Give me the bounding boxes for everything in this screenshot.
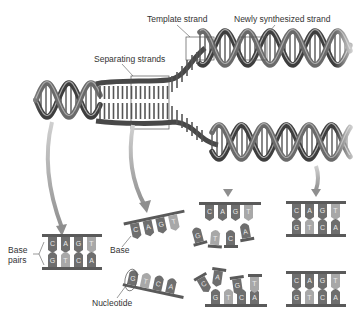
base-letter: C <box>294 277 299 284</box>
base-letter: A <box>333 224 338 231</box>
label-base: Base <box>110 245 130 255</box>
base-letter: C <box>294 207 299 214</box>
base-letter: G <box>213 294 218 301</box>
arrow-to-separation <box>131 125 145 206</box>
base-letter: C <box>320 224 325 231</box>
nucleotide-backbone <box>248 274 262 277</box>
nucleotide-backbone <box>208 244 222 248</box>
replicating-top-panel: CAGTGTCA <box>189 202 261 249</box>
separated-top-strand: CAGT <box>123 210 188 241</box>
base-letter: A <box>252 294 257 301</box>
dna-replication-diagram: Template strand Newly synthesized strand… <box>0 0 360 326</box>
base-letter: C <box>228 235 233 242</box>
backbone-bottom <box>42 267 102 270</box>
backbone-bottom <box>286 234 346 237</box>
lower-template-backbone <box>96 121 218 145</box>
base-letter: G <box>233 208 238 215</box>
arrow-head-3 <box>223 189 233 197</box>
base-letter: G <box>294 224 299 231</box>
daughter-helix-bottom <box>212 124 350 160</box>
base-letter: G <box>320 277 325 284</box>
base-letter: C <box>50 240 55 247</box>
incoming-nucleotide: T <box>248 274 262 293</box>
base-letter: A <box>307 277 312 284</box>
backbone-top <box>286 271 346 274</box>
backbone-bottom <box>286 304 346 307</box>
incoming-nucleotide: G <box>189 226 207 247</box>
base-pair-panel: CAGTGTCA <box>286 201 346 237</box>
arrow-to-base-pairs <box>48 122 62 228</box>
backbone <box>199 202 261 205</box>
base-letter: T <box>246 208 251 215</box>
separating-leader <box>122 64 133 76</box>
base-letter: C <box>239 294 244 301</box>
base-letter: T <box>252 280 257 287</box>
daughter-helix-top <box>200 30 350 66</box>
base-letter: C <box>207 208 212 215</box>
backbone-top <box>42 234 102 237</box>
nucleotide-backbone <box>224 245 238 248</box>
incoming-nucleotide: A <box>210 267 227 288</box>
base-letter: T <box>63 257 68 264</box>
label-base-pairs-1: Base <box>8 245 28 255</box>
base-letter: A <box>333 294 338 301</box>
base-letter: G <box>320 207 325 214</box>
base-letter: T <box>89 240 94 247</box>
base-letter: C <box>76 257 81 264</box>
backbone <box>205 304 267 307</box>
label-template-strand: Template strand <box>147 14 208 24</box>
nucleotide-leader <box>117 283 128 298</box>
parent-helix <box>36 82 100 118</box>
arrow-to-daughters <box>316 166 318 190</box>
label-base-pairs-2: pairs <box>8 255 26 265</box>
base-pair-panel: CAGTGTCA <box>42 234 102 270</box>
base-letter: A <box>89 257 94 264</box>
base-letter: T <box>307 294 312 301</box>
fade-right <box>335 20 360 170</box>
base-letter: T <box>226 294 231 301</box>
base-letter: G <box>50 257 55 264</box>
base-letter: A <box>220 208 225 215</box>
base-letter: G <box>76 240 81 247</box>
base-letter: C <box>320 294 325 301</box>
separated-bottom-strand: GTCA <box>123 269 187 299</box>
incoming-nucleotide: C <box>224 230 238 248</box>
base-pair-panel: CAGTGTCA <box>286 271 346 307</box>
template-leader <box>177 25 190 37</box>
label-newly-synthesized-strand: Newly synthesized strand <box>234 14 331 24</box>
base-letter: T <box>333 207 338 214</box>
base-letter: A <box>307 207 312 214</box>
incoming-nucleotide: T <box>208 229 224 248</box>
label-nucleotide: Nucleotide <box>92 298 132 308</box>
arrow-head-4 <box>311 189 321 197</box>
replicating-bottom-panel: GTCACAGT <box>193 267 267 307</box>
base-pairs-leader <box>33 242 44 265</box>
base-letter: T <box>333 277 338 284</box>
base-letter: G <box>294 294 299 301</box>
backbone-top <box>286 201 346 204</box>
fade-left <box>0 60 40 150</box>
base-letter: T <box>307 224 312 231</box>
incoming-nucleotide: A <box>238 222 255 242</box>
base-letter: A <box>63 240 68 247</box>
base-letter: G <box>234 282 240 290</box>
label-separating-strands: Separating strands <box>94 54 165 64</box>
